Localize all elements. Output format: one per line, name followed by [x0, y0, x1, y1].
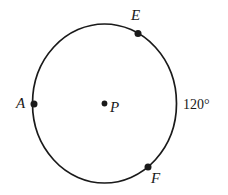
arc-measure-label: 120° [183, 98, 210, 112]
point-a-label: A [16, 96, 25, 111]
point-e-dot [135, 30, 142, 37]
circle-diagram-figure: A E F P 120° [0, 0, 228, 195]
point-f-label: F [151, 171, 160, 186]
center-point-label: P [110, 100, 119, 115]
point-a-dot [31, 101, 38, 108]
center-point-dot [102, 101, 108, 107]
point-e-label: E [131, 8, 140, 23]
